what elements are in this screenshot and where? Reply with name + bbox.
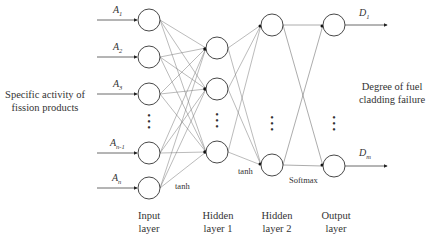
activation-softmax: Softmax xyxy=(289,175,318,185)
layer-label-hidden-2: Hidden layer 2 xyxy=(255,209,299,235)
output-description: Degree of fuel cladding failure xyxy=(356,80,428,106)
output-ellipsis: ••• xyxy=(330,115,338,133)
activation-tanh-2: tanh xyxy=(238,166,253,176)
input-label-a3: A3 xyxy=(113,78,122,91)
hidden2-ellipsis: ••• xyxy=(268,115,276,133)
hidden1-ellipsis: ••• xyxy=(213,112,221,130)
output-label-d1: D1 xyxy=(359,7,369,20)
output-layer-nodes xyxy=(323,14,345,177)
output-label-dm: Dm xyxy=(359,147,371,160)
layer-label-output: Output layer xyxy=(314,209,358,235)
input-description: Specific activity of fission products xyxy=(4,88,86,114)
layer-label-input: Input layer xyxy=(129,209,169,235)
activation-tanh-1: tanh xyxy=(175,181,190,191)
connections-input-hidden1 xyxy=(160,20,206,188)
input-layer-nodes xyxy=(138,9,160,199)
hidden-layer-1-nodes xyxy=(206,37,228,163)
input-label-a1: A1 xyxy=(113,4,122,17)
input-label-an-1: An-1 xyxy=(110,137,125,150)
layer-label-hidden-1: Hidden layer 1 xyxy=(196,209,240,235)
hidden-layer-2-nodes xyxy=(261,14,283,176)
input-label-an: An xyxy=(112,172,121,185)
connections-hidden2-output xyxy=(283,25,323,166)
input-ellipsis: ••• xyxy=(145,113,153,131)
connections-hidden1-hidden2 xyxy=(228,25,261,165)
input-label-a2: A2 xyxy=(113,41,122,54)
